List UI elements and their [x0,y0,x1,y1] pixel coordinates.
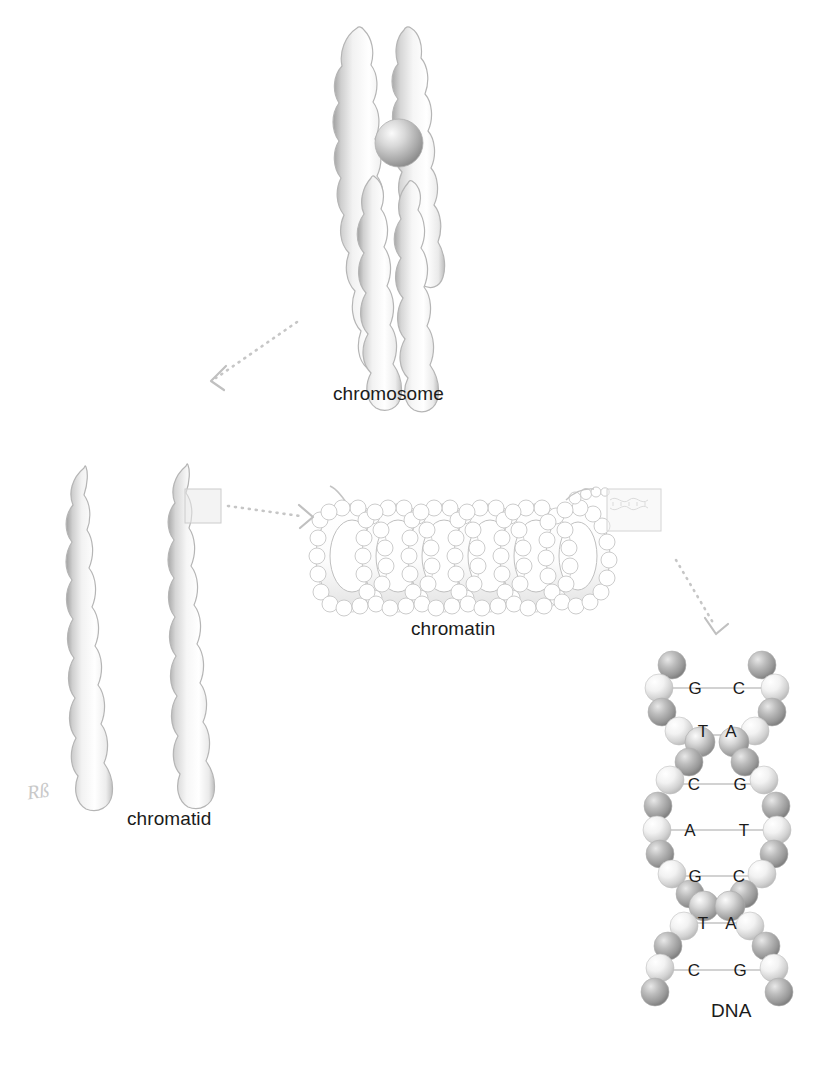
chromatid-illustration [66,464,221,811]
base-right-3: T [739,821,749,840]
centromere-sphere [375,119,423,167]
arrow-chromatin-to-dna-line [676,560,715,626]
arrow-chromosome-to-chromatid-head [211,366,226,390]
base-left-6: C [688,961,700,980]
diagram-illustration: G C T A C G A T G C T A C G [0,0,822,1080]
label-chromatin: chromatin [411,618,495,640]
arrow-chromatid-to-chromatin-line [228,506,300,516]
base-right-2: G [733,775,746,794]
label-chromatid: chromatid [127,808,211,830]
base-left-3: A [684,821,696,840]
dna-backbone-right [715,651,793,1006]
dna-illustration: G C T A C G A T G C T A C G [641,651,793,1006]
dna-backbone-left [641,651,719,1006]
base-left-1: T [698,722,708,741]
base-right-4: C [733,867,745,886]
chromatid-zoom-box [185,489,221,523]
chromosome-illustration [333,27,445,412]
arrow-chromatid-to-chromatin-head [299,505,313,528]
base-left-5: T [698,914,708,933]
base-right-0: C [733,679,745,698]
chromatin-zoom-box [607,489,661,531]
base-right-5: A [725,914,737,933]
chromatin-illustration [309,486,661,616]
base-right-6: G [733,961,746,980]
arrow-chromatin-to-dna-head [705,618,728,634]
base-left-0: G [688,679,701,698]
base-left-2: C [688,775,700,794]
arrow-chromosome-to-chromatid-line [216,322,297,378]
diagram-canvas: G C T A C G A T G C T A C G [0,0,822,1080]
label-dna: DNA [711,1000,751,1022]
base-right-1: A [725,722,737,741]
base-left-4: G [688,867,701,886]
artist-signature: Rß [26,779,51,805]
label-chromosome: chromosome [333,383,444,405]
